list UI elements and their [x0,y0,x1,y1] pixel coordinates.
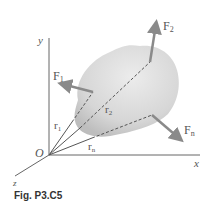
force-2-label: F2 [163,19,174,34]
force-1-label: F1 [53,69,64,84]
figure-caption: Fig. P3.C5 [14,190,63,201]
z-axis-label: z [12,178,17,188]
x-axis-label: x [193,157,199,169]
force-n-arrow [152,115,180,139]
rn-label: rn [88,140,96,154]
rigid-body-diagram: y x z O F1 F2 Fn r1 r2 rn Fig. P3.C5 [0,0,211,203]
z-axis [15,155,49,176]
origin-label: O [35,146,44,160]
y-axis-label: y [37,34,43,46]
r1-label: r1 [54,119,62,133]
force-n-label: Fn [184,123,195,138]
